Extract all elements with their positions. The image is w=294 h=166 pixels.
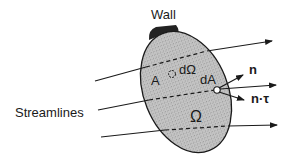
normal-label: n <box>249 62 257 77</box>
control-volume-region <box>123 18 248 166</box>
control-volume-diagram: Wall Streamlines A dΩ dA n n·τ Ω <box>0 0 294 166</box>
volume-element-label: dΩ <box>179 62 196 77</box>
surface-area-label: A <box>151 73 160 88</box>
area-element-label: dA <box>200 72 216 87</box>
wall-label: Wall <box>151 7 176 22</box>
streamlines-label: Streamlines <box>15 105 84 120</box>
volume-label: Ω <box>190 108 202 125</box>
stress-label: n·τ <box>251 91 269 106</box>
